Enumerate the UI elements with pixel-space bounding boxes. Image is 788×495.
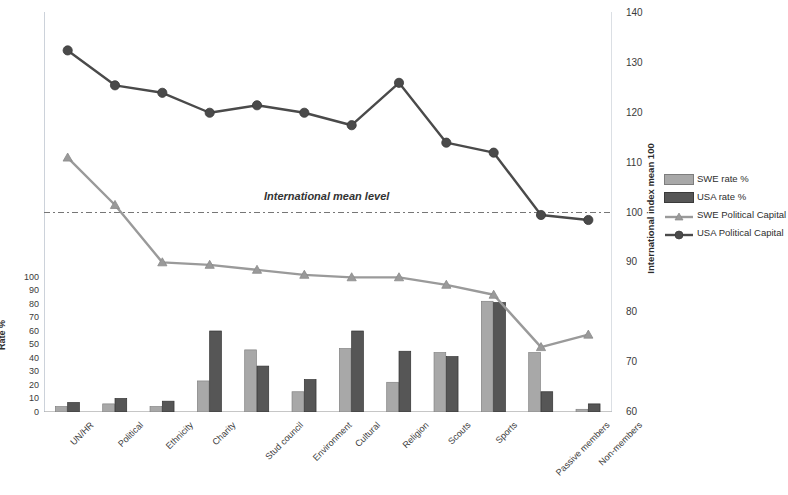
legend-marker-icon — [664, 173, 694, 185]
right-axis-tick-label: 110 — [626, 158, 642, 168]
left-axis-tick-label: 40 — [29, 354, 39, 363]
bar-series-swe-rate — [55, 301, 587, 412]
data-point-marker — [252, 101, 261, 110]
plot-area: International mean level — [44, 12, 612, 412]
data-point-marker — [442, 138, 451, 147]
right-axis-title: International index mean 100 — [645, 143, 656, 273]
category-label: Charity — [210, 420, 237, 447]
bar — [446, 357, 458, 412]
category-label: Political — [116, 420, 145, 449]
bar — [399, 351, 411, 412]
left-axis-tick-label: 60 — [29, 327, 39, 336]
bar — [434, 353, 446, 412]
bar — [541, 392, 553, 412]
data-point-marker — [110, 81, 119, 90]
international-mean-level-annotation: International mean level — [264, 190, 389, 202]
data-point-marker — [205, 108, 214, 117]
data-point-marker — [489, 148, 498, 157]
bar — [210, 331, 222, 412]
data-point-marker — [300, 108, 309, 117]
left-axis-tick-label: 90 — [29, 286, 39, 295]
legend-marker-icon — [664, 209, 694, 221]
category-label: Scouts — [446, 420, 473, 447]
right-axis-tick-label: 70 — [626, 357, 637, 367]
data-point-marker — [63, 153, 72, 161]
legend-marker-icon — [664, 227, 694, 239]
legend-entry-label: USA Political Capital — [697, 227, 784, 238]
right-axis-tick-label: 130 — [626, 58, 643, 68]
data-point-marker — [394, 78, 403, 87]
line-series-swe-political-capital — [63, 153, 593, 351]
bar — [245, 350, 257, 412]
left-value-axis: Rate % 0102030405060708090100 — [0, 12, 44, 412]
left-axis-tick-label: 100 — [24, 273, 39, 282]
left-axis-tick-label: 10 — [29, 394, 39, 403]
left-axis-tick-label: 70 — [29, 313, 39, 322]
legend-entry: SWE Political Capital — [664, 206, 788, 223]
category-label: Cultural — [353, 420, 382, 449]
legend-entry: USA rate % — [664, 188, 788, 205]
category-axis-labels: UN/HRPoliticalEthnicityCharityStud counc… — [44, 412, 612, 495]
bar — [292, 392, 304, 412]
right-axis-tick-label: 140 — [626, 8, 643, 18]
chart-legend: SWE rate %USA rate %SWE Political Capita… — [664, 170, 788, 242]
bar — [387, 382, 399, 412]
left-axis-tick-label: 30 — [29, 367, 39, 376]
usa-rate-swatch-icon — [664, 192, 694, 203]
right-axis-tick-label: 90 — [626, 257, 637, 267]
left-axis-tick-label: 20 — [29, 381, 39, 390]
category-label: Sports — [493, 420, 518, 445]
left-axis-tick-label: 80 — [29, 300, 39, 309]
bar-series-usa-rate — [68, 303, 600, 412]
bar — [257, 366, 269, 412]
legend-entry: SWE rate % — [664, 170, 788, 187]
data-point-marker — [347, 121, 356, 130]
bar — [352, 331, 364, 412]
chart-figure: Rate % 0102030405060708090100 Internatio… — [0, 0, 788, 495]
bar — [494, 303, 506, 412]
usa-line-marker-icon — [664, 229, 694, 241]
bar — [304, 380, 316, 412]
category-label: Religion — [401, 420, 431, 450]
left-axis-tick-label: 50 — [29, 340, 39, 349]
data-point-marker — [536, 210, 545, 219]
bar — [162, 401, 174, 412]
category-label: Passive members — [554, 420, 612, 478]
legend-entry-label: SWE rate % — [697, 173, 749, 184]
bar — [481, 301, 493, 412]
bar — [115, 399, 127, 413]
bar — [68, 403, 80, 412]
data-point-marker — [63, 46, 72, 55]
data-point-marker — [584, 330, 593, 338]
right-axis-tick-label: 80 — [626, 307, 637, 317]
right-axis-tick-label: 120 — [626, 108, 643, 118]
right-axis-tick-label: 100 — [626, 208, 643, 218]
legend-entry-label: SWE Political Capital — [697, 209, 786, 220]
right-axis-tick-label: 60 — [626, 407, 637, 417]
data-point-marker — [584, 215, 593, 224]
left-axis-tick-label: 0 — [34, 408, 39, 417]
category-label: Ethnicity — [164, 420, 195, 451]
bar — [588, 404, 600, 412]
data-point-marker — [158, 88, 167, 97]
bar — [339, 349, 351, 412]
legend-entry: USA Political Capital — [664, 224, 788, 241]
category-label: UN/HR — [68, 420, 95, 447]
legend-marker-icon — [664, 191, 694, 203]
bar — [103, 404, 115, 412]
right-value-axis: 60708090100110120130140 — [612, 0, 672, 424]
swe-rate-swatch-icon — [664, 174, 694, 185]
legend-entry-label: USA rate % — [697, 191, 746, 202]
category-label: Stud council — [263, 420, 305, 462]
left-axis-title: Rate % — [0, 320, 7, 350]
swe-line-marker-icon — [664, 211, 694, 223]
bar — [197, 381, 209, 412]
plot-canvas — [44, 12, 612, 412]
category-label: Environment — [311, 420, 354, 463]
bar — [529, 353, 541, 412]
series-line — [68, 158, 589, 348]
